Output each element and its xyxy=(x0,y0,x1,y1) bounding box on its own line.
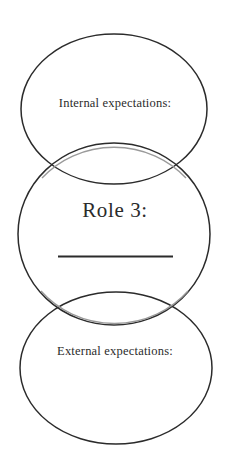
internal-expectations-circle[interactable] xyxy=(21,34,207,184)
role-circle-top-overlap-arc xyxy=(42,147,186,178)
role-circle-bottom-overlap-arc xyxy=(41,291,188,323)
venn-diagram-svg xyxy=(0,0,230,469)
external-expectations-circle[interactable] xyxy=(20,292,212,444)
venn-diagram-worksheet: Internal expectations: Role 3: External … xyxy=(0,0,230,469)
